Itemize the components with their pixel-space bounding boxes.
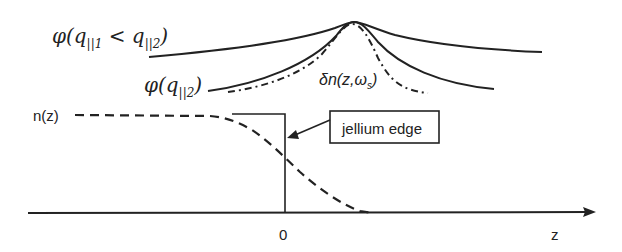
origin-label: 0 <box>279 226 287 243</box>
density-profile-curve <box>75 115 372 213</box>
svg-text:φ(q||1 < q||2): φ(q||1 < q||2) <box>52 24 168 51</box>
svg-text:φ(q||2): φ(q||2) <box>144 73 202 100</box>
jellium-edge-callout-text: jellium edge <box>341 120 422 137</box>
svg-text:δn(z,ωs): δn(z,ωs) <box>319 71 377 91</box>
delta-n-label: δn(z,ωs) <box>319 71 377 91</box>
jellium-diagram: φ(q||1 < q||2) φ(q||2) δn(z,ωs) n(z) 0 z… <box>0 0 622 252</box>
n-z-label: n(z) <box>33 107 59 124</box>
phi-inner-label: φ(q||2) <box>144 73 202 100</box>
phi-outer-label: φ(q||1 < q||2) <box>52 24 168 51</box>
jellium-step <box>232 114 285 213</box>
callout-arrowhead <box>287 130 299 139</box>
z-axis <box>28 212 590 213</box>
z-axis-label: z <box>551 226 559 243</box>
callout-arrow-line <box>295 120 330 135</box>
